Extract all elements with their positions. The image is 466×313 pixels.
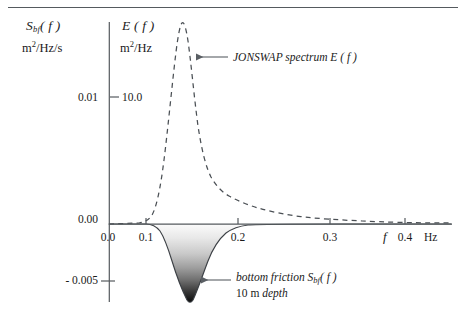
jonswap-spectrum-curve	[109, 23, 451, 224]
bottom-friction-curve	[109, 224, 451, 302]
bottom-friction-filled-area	[109, 224, 451, 302]
figure-container: Sbf( f ) m2/Hz/s E ( f ) m2/Hz 0.01 0.00…	[0, 0, 466, 313]
plot-canvas	[0, 0, 466, 313]
